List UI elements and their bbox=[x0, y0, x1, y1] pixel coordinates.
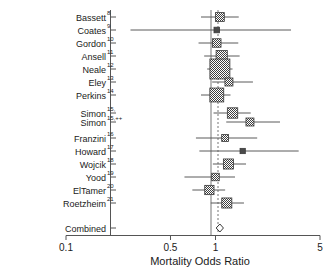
point-estimate-marker bbox=[212, 173, 220, 181]
study-row: Neale12 bbox=[82, 59, 232, 79]
combined-label: Combined bbox=[65, 224, 106, 234]
study-reference-superscript: 20 bbox=[107, 183, 114, 189]
study-reference-superscript: 19 bbox=[107, 170, 114, 176]
point-estimate-marker bbox=[213, 39, 221, 47]
x-axis-tick-label: 5 bbox=[317, 242, 323, 253]
study-reference-superscript: 12 bbox=[107, 62, 114, 68]
study-label: Yood bbox=[86, 173, 106, 183]
study-reference-superscript: 11 bbox=[107, 49, 114, 55]
point-estimate-marker bbox=[246, 118, 254, 126]
study-reference-superscript: 10 bbox=[107, 36, 114, 42]
point-estimate-marker bbox=[205, 185, 214, 194]
point-estimate-marker bbox=[222, 198, 232, 208]
pooled-estimate-diamond bbox=[216, 224, 223, 232]
study-row: ElTamer20 bbox=[73, 183, 225, 196]
study-row: Wojcik18 bbox=[80, 157, 246, 170]
study-label: Franzini bbox=[74, 134, 106, 144]
point-estimate-marker bbox=[215, 13, 224, 22]
study-label: Neale bbox=[82, 65, 106, 75]
point-estimate-marker bbox=[227, 108, 237, 118]
study-row: Coates9 bbox=[77, 23, 291, 36]
study-label: Coates bbox=[77, 26, 106, 36]
study-label: Simon bbox=[80, 118, 106, 128]
study-rows-group: Bassett8Coates9Gordon10Ansell11Neale12El… bbox=[63, 10, 299, 209]
point-estimate-marker bbox=[210, 59, 230, 79]
x-axis-tick-label: 1 bbox=[213, 242, 219, 253]
point-estimate-marker bbox=[225, 78, 233, 86]
point-estimate-marker bbox=[210, 88, 224, 102]
study-row: Gordon10 bbox=[76, 36, 238, 49]
study-label: Bassett bbox=[76, 13, 107, 23]
study-label: Wojcik bbox=[80, 160, 107, 170]
x-axis-ticks-group: 0.10.515 bbox=[59, 236, 323, 254]
study-reference-superscript: 14 bbox=[107, 88, 114, 94]
study-row: Bassett8 bbox=[76, 10, 239, 23]
study-row: Franzini16 bbox=[74, 131, 257, 144]
study-reference-superscript: 18 bbox=[107, 157, 114, 163]
point-estimate-marker bbox=[222, 135, 229, 142]
study-label: ElTamer bbox=[73, 186, 106, 196]
study-label: Ansell bbox=[81, 52, 106, 62]
point-estimate-marker bbox=[223, 159, 233, 169]
study-reference-superscript: 15, bbox=[107, 106, 116, 112]
point-estimate-marker bbox=[214, 27, 220, 33]
study-reference-superscript: 16 bbox=[107, 131, 114, 137]
study-row: Roetzheim21 bbox=[63, 196, 244, 209]
point-estimate-marker bbox=[240, 148, 245, 153]
x-axis-tick-label: 0.5 bbox=[164, 242, 178, 253]
study-row: Yood19 bbox=[86, 170, 235, 183]
study-label: Howard bbox=[75, 147, 106, 157]
study-reference-superscript: 15,++ bbox=[107, 115, 123, 121]
study-reference-superscript: 13 bbox=[107, 75, 114, 81]
x-axis-tick-label: 0.1 bbox=[59, 242, 73, 253]
study-row: Howard17 bbox=[75, 144, 299, 157]
combined-row-group: Combined bbox=[65, 224, 223, 234]
study-label: Eley bbox=[88, 78, 106, 88]
study-row: Perkins14 bbox=[76, 88, 231, 102]
study-label: Gordon bbox=[76, 39, 106, 49]
forest-plot: Bassett8Coates9Gordon10Ansell11Neale12El… bbox=[0, 0, 325, 271]
study-label: Perkins bbox=[76, 91, 107, 101]
study-reference-superscript: 17 bbox=[107, 144, 114, 150]
study-label: Roetzheim bbox=[63, 199, 106, 209]
x-axis-title: Mortality Odds Ratio bbox=[150, 255, 250, 267]
study-reference-superscript: 21 bbox=[107, 196, 114, 202]
